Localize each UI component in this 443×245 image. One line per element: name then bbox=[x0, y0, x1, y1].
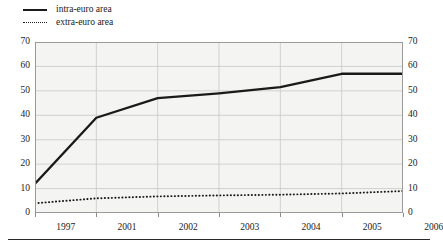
x-axis-tick-2001: 2001 bbox=[118, 222, 137, 232]
plot-area bbox=[35, 42, 403, 213]
plot-canvas bbox=[35, 42, 403, 213]
y-axis-left-tick-10: 10 bbox=[2, 184, 30, 193]
x-axis-tickmark-2004 bbox=[280, 213, 281, 217]
y-axis-left-tick-20: 20 bbox=[2, 159, 30, 168]
y-axis-right-tick-10: 10 bbox=[408, 184, 436, 193]
y-axis-right-tick-40: 40 bbox=[408, 110, 436, 119]
legend-label-intra-euro-area: intra-euro area bbox=[56, 3, 112, 16]
y-axis-left-tick-40: 40 bbox=[2, 110, 30, 119]
x-axis-tickmark-2002 bbox=[158, 213, 159, 217]
y-axis-right-tick-0: 0 bbox=[408, 208, 436, 217]
legend-label-extra-euro-area: extra-euro area bbox=[56, 16, 113, 29]
bottom-divider bbox=[8, 239, 430, 240]
x-axis-tick-2004: 2004 bbox=[302, 222, 321, 232]
dotted-line-swatch-icon bbox=[22, 18, 48, 28]
y-axis-left-tick-30: 30 bbox=[2, 135, 30, 144]
y-axis-right-tick-30: 30 bbox=[408, 135, 436, 144]
x-axis-tickmark-2003 bbox=[219, 213, 220, 217]
x-axis-tick-2002: 2002 bbox=[179, 222, 198, 232]
legend-item-extra-euro-area: extra-euro area bbox=[22, 16, 222, 29]
y-axis-left-tick-0: 0 bbox=[2, 208, 30, 217]
y-axis-right-tick-20: 20 bbox=[408, 159, 436, 168]
vertical-gridlines bbox=[96, 42, 403, 213]
chart-legend: intra-euro area extra-euro area bbox=[22, 3, 222, 29]
x-axis-tick-2003: 2003 bbox=[240, 222, 259, 232]
y-axis-right-tick-50: 50 bbox=[408, 86, 436, 95]
y-axis-left-tick-70: 70 bbox=[2, 37, 30, 46]
x-axis-tickmark-1997 bbox=[35, 213, 36, 217]
x-axis-tickmark-end bbox=[403, 213, 404, 217]
x-axis-tick-2005: 2005 bbox=[363, 222, 382, 232]
legend-item-intra-euro-area: intra-euro area bbox=[22, 3, 222, 16]
y-axis-left-tick-50: 50 bbox=[2, 86, 30, 95]
x-axis-tick-2006: 2006 bbox=[424, 222, 443, 232]
y-axis-right-tick-70: 70 bbox=[408, 37, 436, 46]
x-axis-tickmark-2005 bbox=[342, 213, 343, 217]
y-axis-left-tick-60: 60 bbox=[2, 61, 30, 70]
solid-line-swatch-icon bbox=[22, 5, 48, 15]
y-axis-right-tick-60: 60 bbox=[408, 61, 436, 70]
x-axis-tick-1997: 1997 bbox=[56, 222, 75, 232]
x-axis-tickmark-2001 bbox=[96, 213, 97, 217]
